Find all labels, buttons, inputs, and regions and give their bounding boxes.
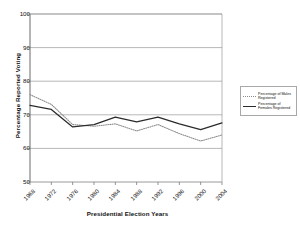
chart-container: Percentage Reported Voting 5060708090100…: [0, 0, 300, 226]
x-tick-label: 2000: [183, 188, 207, 212]
x-tick-label: 1976: [55, 188, 79, 212]
chart-legend: Percentage of Males Registered Percentag…: [240, 86, 297, 116]
legend-label-females: Percentage of Females Registered: [258, 102, 294, 111]
x-tick-label: 2004: [204, 188, 228, 212]
x-tick-label: 1992: [140, 188, 164, 212]
x-axis-title: Presidential Election Years: [30, 210, 225, 217]
legend-item-males: Percentage of Males Registered: [243, 92, 294, 101]
x-tick-label: 1968: [12, 188, 36, 212]
legend-swatch-dotted-line-icon: [243, 93, 256, 100]
x-tick-label: 1988: [119, 188, 143, 212]
x-tick-label: 1984: [98, 188, 122, 212]
legend-swatch-solid-line-icon: [243, 103, 256, 110]
x-tick-label: 1972: [34, 188, 58, 212]
x-tick-label: 1980: [76, 188, 100, 212]
x-tick-label: 1996: [162, 188, 186, 212]
legend-item-females: Percentage of Females Registered: [243, 102, 294, 111]
legend-label-males: Percentage of Males Registered: [258, 92, 294, 101]
